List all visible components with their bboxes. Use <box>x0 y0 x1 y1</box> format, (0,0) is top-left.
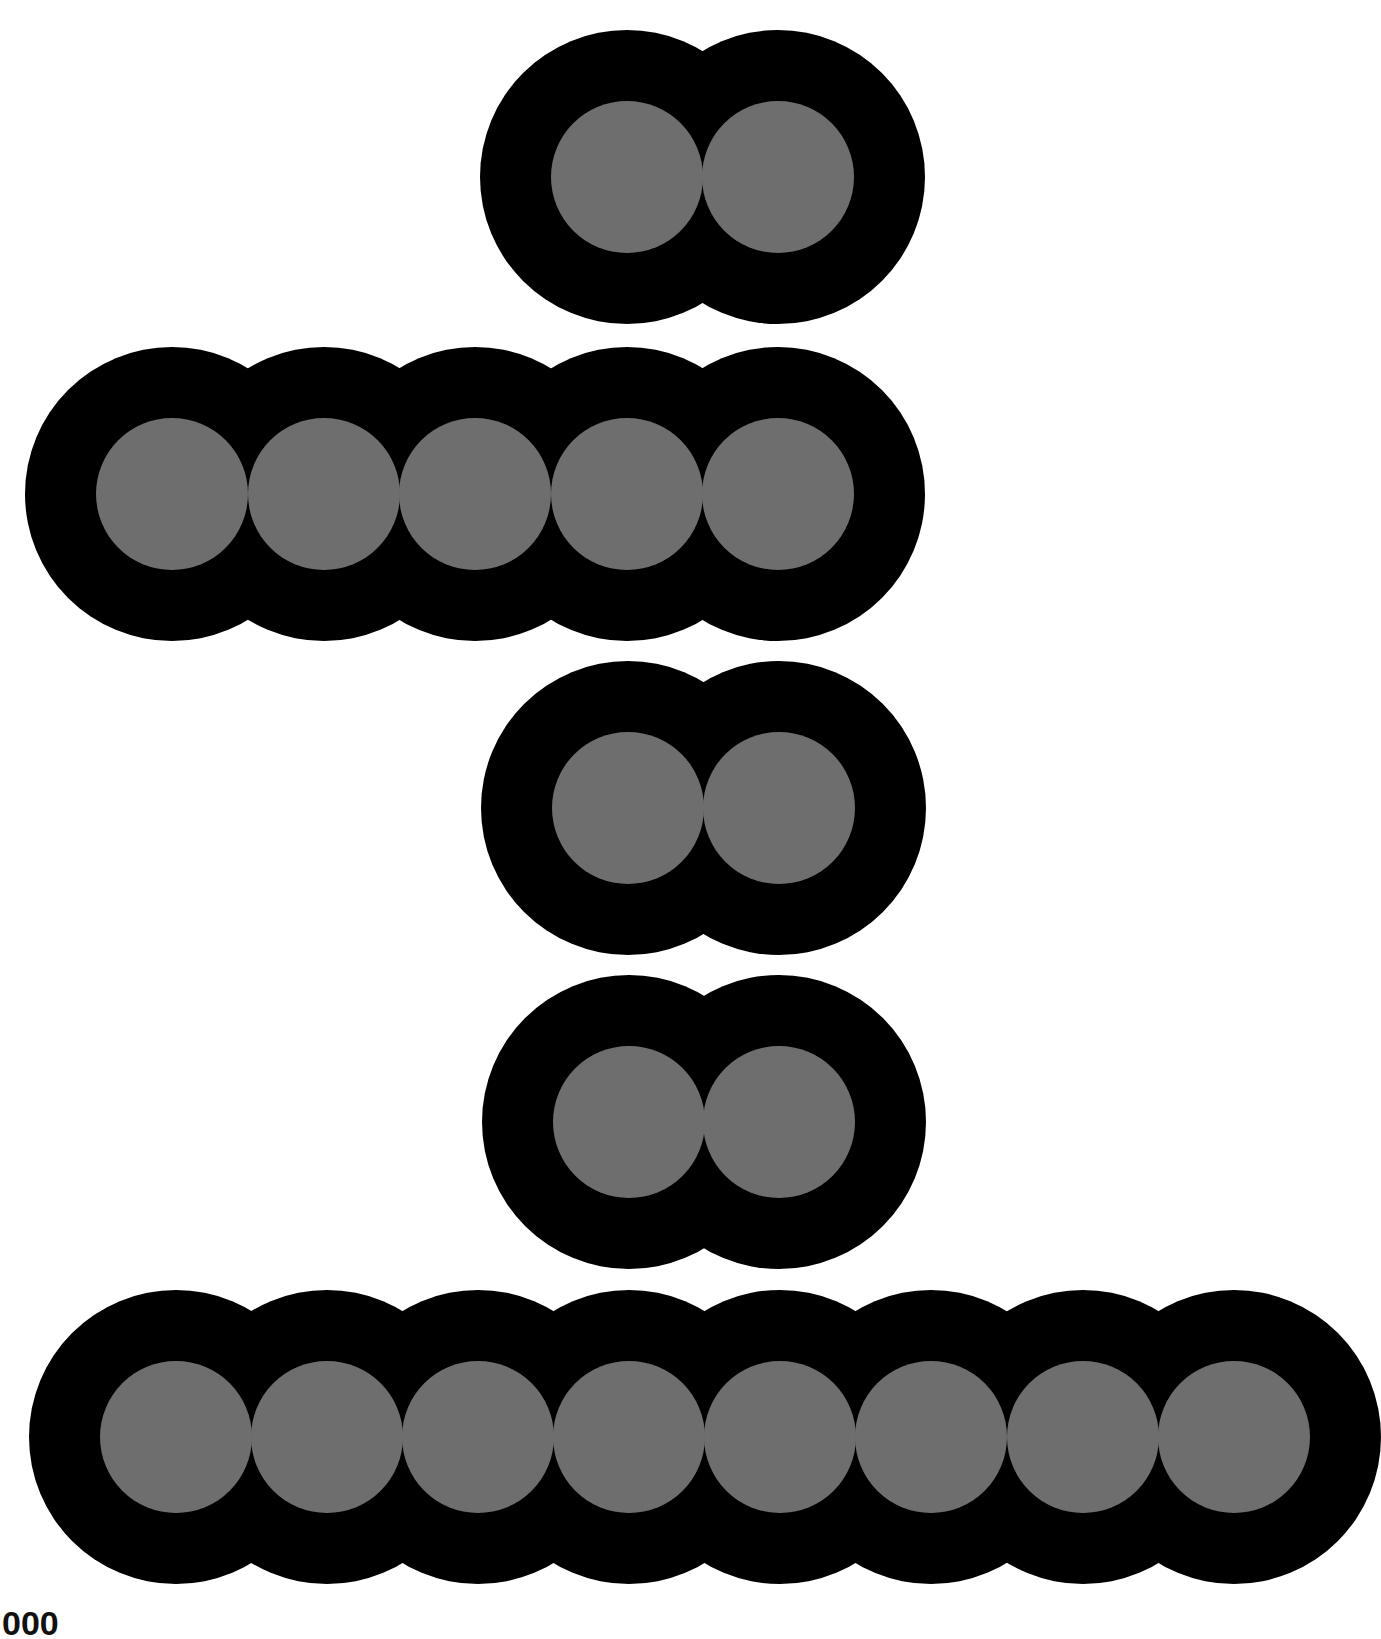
inner-gray-disc <box>1158 1361 1310 1513</box>
inner-gray-disc <box>96 418 248 570</box>
inner-gray-disc <box>703 1046 855 1198</box>
inner-gray-disc <box>399 418 551 570</box>
inner-gray-disc <box>551 101 703 253</box>
inner-gray-disc <box>402 1361 554 1513</box>
inner-gray-disc <box>553 1361 705 1513</box>
inner-gray-disc <box>704 1361 856 1513</box>
inner-gray-disc <box>702 418 854 570</box>
inner-gray-disc <box>248 418 400 570</box>
inner-gray-disc <box>100 1361 252 1513</box>
inner-gray-disc <box>551 418 703 570</box>
inner-gray-disc <box>553 1046 705 1198</box>
inner-gray-disc <box>552 732 704 884</box>
figure-caption-partial: 000 <box>2 1606 59 1639</box>
inner-gray-disc <box>251 1361 403 1513</box>
inner-gray-disc <box>855 1361 1007 1513</box>
inner-gray-disc <box>702 101 854 253</box>
inner-gray-disc <box>1007 1361 1159 1513</box>
inner-gray-disc <box>703 732 855 884</box>
